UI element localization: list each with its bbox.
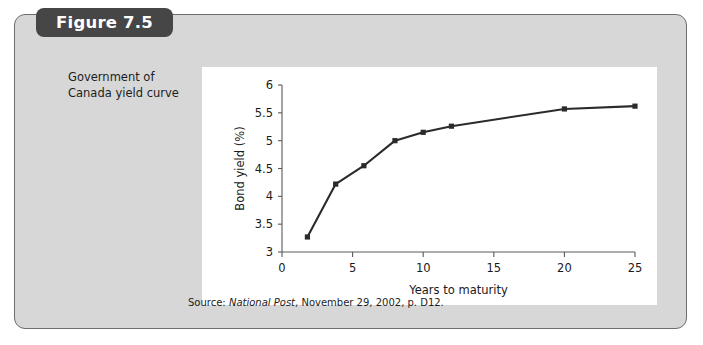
y-axis-tick-label: 5.5 — [255, 106, 273, 120]
y-axis-tick-label: 6 — [266, 78, 273, 92]
y-axis-tick-label: 4.5 — [255, 162, 273, 176]
yield-curve-chart: 33.544.555.560510152025Years to maturity… — [202, 67, 657, 305]
y-axis-tick-label: 3.5 — [255, 217, 273, 231]
data-point-marker[interactable] — [449, 124, 454, 129]
source-note: Source: National Post, November 29, 2002… — [188, 297, 444, 308]
figure-number-tab: Figure 7.5 — [36, 8, 173, 37]
data-point-marker[interactable] — [392, 138, 397, 143]
x-axis-tick-label: 10 — [416, 261, 431, 275]
data-point-marker[interactable] — [361, 163, 366, 168]
chart-panel: 33.544.555.560510152025Years to maturity… — [202, 67, 657, 305]
x-axis-tick-label: 15 — [486, 261, 501, 275]
x-axis-tick-label: 25 — [628, 261, 643, 275]
y-axis-tick-label: 4 — [266, 189, 273, 203]
y-axis-tick-label: 5 — [266, 134, 273, 148]
figure-caption: Government of Canada yield curve — [68, 69, 196, 101]
data-point-marker[interactable] — [333, 181, 338, 186]
data-point-marker[interactable] — [632, 104, 637, 109]
y-axis-title: Bond yield (%) — [233, 126, 247, 210]
series-line-0 — [307, 106, 635, 237]
source-details: , November 29, 2002, p. D12. — [295, 297, 444, 308]
x-axis-title: Years to maturity — [408, 283, 508, 297]
data-point-marker[interactable] — [562, 106, 567, 111]
x-axis-tick-label: 5 — [349, 261, 356, 275]
data-point-marker[interactable] — [421, 130, 426, 135]
x-axis-tick-label: 0 — [278, 261, 285, 275]
figure-number-label: Figure 7.5 — [56, 13, 153, 32]
data-point-marker[interactable] — [305, 234, 310, 239]
figure-frame: Government of Canada yield curve 33.544.… — [14, 14, 687, 329]
source-publication: National Post — [229, 297, 295, 308]
x-axis-tick-label: 20 — [557, 261, 572, 275]
source-prefix: Source: — [188, 297, 226, 308]
y-axis-tick-label: 3 — [266, 245, 273, 259]
